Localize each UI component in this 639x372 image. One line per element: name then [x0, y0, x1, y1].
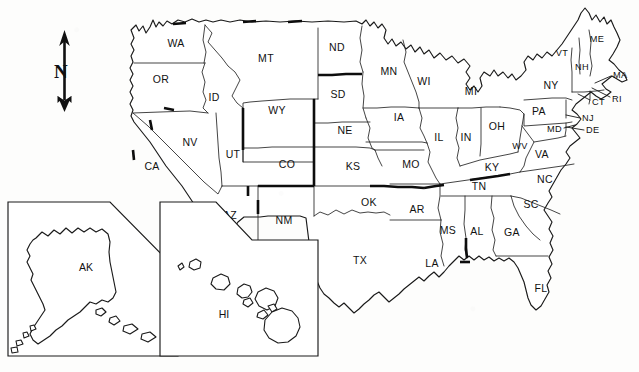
state-label-VT: VT	[556, 48, 568, 58]
state-label-CT: CT	[592, 97, 605, 107]
state-label-NV: NV	[182, 136, 197, 148]
state-label-NC: NC	[537, 173, 553, 185]
state-label-OK: OK	[361, 196, 377, 208]
us-map: N	[0, 0, 639, 372]
map-svg: N	[0, 0, 639, 372]
alaska-inset: AK	[8, 202, 178, 356]
state-label-IL: IL	[434, 131, 443, 143]
state-label-MT: MT	[258, 52, 274, 64]
state-label-MA: MA	[613, 70, 628, 80]
state-label-MI: MI	[465, 85, 477, 97]
state-label-CA: CA	[144, 160, 159, 172]
state-label-UT: UT	[226, 148, 241, 160]
state-label-IA: IA	[394, 111, 405, 123]
state-label-VA: VA	[535, 148, 549, 160]
state-label-MO: MO	[402, 158, 420, 170]
state-label-WA: WA	[167, 37, 184, 49]
state-label-IN: IN	[460, 131, 471, 143]
state-label-KS: KS	[346, 160, 361, 172]
state-label-AL: AL	[470, 225, 483, 237]
state-label-WV: WV	[512, 141, 528, 151]
state-label-DE: DE	[586, 125, 599, 135]
state-label-MD: MD	[547, 124, 562, 134]
state-label-RI: RI	[612, 94, 622, 104]
hawaii-inset: HI	[160, 202, 318, 356]
state-label-ME: ME	[590, 34, 604, 44]
state-label-AR: AR	[409, 203, 424, 215]
state-label-NE: NE	[337, 124, 352, 136]
inset-label-AK: AK	[79, 261, 93, 273]
state-label-NH: NH	[575, 62, 589, 72]
state-label-GA: GA	[504, 226, 520, 238]
state-label-MS: MS	[440, 224, 456, 236]
state-label-TN: TN	[472, 180, 487, 192]
state-label-ND: ND	[329, 41, 345, 53]
state-label-NJ: NJ	[582, 113, 594, 123]
state-label-OR: OR	[153, 73, 169, 85]
state-label-NM: NM	[276, 214, 293, 226]
state-label-ID: ID	[208, 91, 219, 103]
north-arrow-label: N	[54, 61, 68, 82]
state-label-LA: LA	[425, 257, 438, 269]
state-label-PA: PA	[532, 105, 546, 117]
state-label-KY: KY	[485, 161, 500, 173]
state-label-NY: NY	[543, 79, 558, 91]
state-label-CO: CO	[279, 158, 295, 170]
state-label-WY: WY	[268, 104, 286, 116]
state-label-FL: FL	[535, 282, 548, 294]
state-label-OH: OH	[489, 120, 505, 132]
inset-label-HI: HI	[219, 308, 230, 320]
state-label-SD: SD	[330, 88, 345, 100]
state-label-WI: WI	[417, 75, 430, 87]
state-label-SC: SC	[523, 198, 538, 210]
state-label-MN: MN	[381, 65, 398, 77]
north-arrow-icon: N	[54, 30, 72, 112]
state-label-TX: TX	[353, 254, 367, 266]
